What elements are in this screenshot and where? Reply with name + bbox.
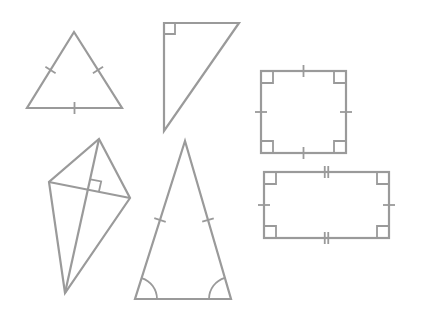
right-angle-marker: [261, 141, 273, 153]
square: [255, 65, 352, 159]
right-triangle: [164, 23, 239, 131]
equilateral-triangle: [27, 32, 122, 114]
right-angle-marker: [261, 71, 273, 83]
right-angle-marker: [377, 172, 389, 184]
kite: [49, 139, 130, 293]
right-angle-marker: [334, 71, 346, 83]
kite-outline: [49, 139, 130, 293]
angle-arc: [142, 278, 157, 299]
right-angle-marker: [377, 226, 389, 238]
tick-mark: [45, 67, 55, 73]
right-angle-marker: [264, 226, 276, 238]
tick-mark: [93, 67, 103, 73]
triangle-outline: [27, 32, 122, 108]
right-angle-marker: [264, 172, 276, 184]
geometry-figure: [0, 0, 424, 319]
angle-arc: [209, 278, 225, 299]
rectangle-outline: [264, 172, 389, 238]
triangle-outline: [135, 141, 231, 299]
shapes-svg: [0, 0, 424, 319]
triangle-outline: [164, 23, 239, 131]
right-angle-marker: [164, 23, 175, 34]
isosceles-triangle: [135, 141, 231, 299]
rectangle: [258, 166, 395, 244]
right-angle-marker: [334, 141, 346, 153]
